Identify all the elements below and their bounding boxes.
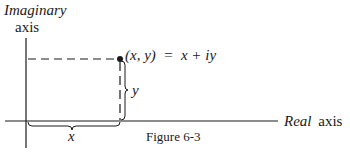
y-brace xyxy=(121,61,128,120)
x-brace-label: x xyxy=(68,129,75,144)
real-axis-label-italic: Real xyxy=(284,113,312,129)
imaginary-axis-label-axis: axis xyxy=(15,20,39,35)
figure-caption: Figure 6-3 xyxy=(146,130,201,143)
y-brace-label: y xyxy=(132,83,139,98)
point-label: (x, y) = x + iy xyxy=(125,48,216,63)
imaginary-axis-label: Imaginary xyxy=(4,3,67,18)
real-axis-label-axis: axis xyxy=(318,113,342,129)
real-axis-label: Real axis xyxy=(284,114,342,129)
